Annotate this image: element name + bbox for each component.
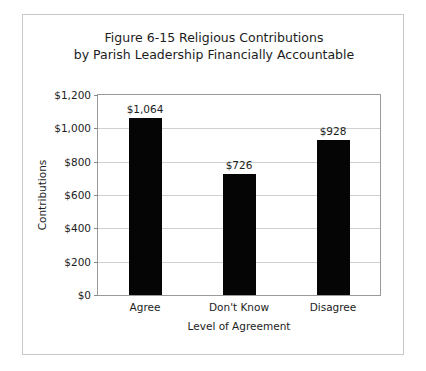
bar-value-label: $726 — [226, 159, 253, 171]
plot-area: $0$200$400$600$800$1,000$1,200$1,064Agre… — [97, 94, 381, 296]
y-axis-tick — [94, 162, 98, 163]
y-axis-tick-label: $800 — [64, 156, 91, 168]
y-axis-tick — [94, 262, 98, 263]
y-axis-tick — [94, 95, 98, 96]
chart-title: Figure 6-15 Religious Contributions by P… — [23, 29, 405, 63]
chart-title-line-2: by Parish Leadership Financially Account… — [23, 46, 405, 63]
bar: $928 — [317, 140, 350, 295]
bar-value-label: $1,064 — [127, 103, 164, 115]
x-axis-tick-label: Don't Know — [209, 301, 269, 313]
figure-frame: Figure 6-15 Religious Contributions by P… — [22, 14, 404, 355]
y-axis-title-label: Contributions — [36, 160, 48, 231]
y-axis-title: Contributions — [35, 94, 49, 296]
y-axis-tick — [94, 295, 98, 296]
bar-value-label: $928 — [320, 125, 347, 137]
y-axis-tick — [94, 128, 98, 129]
y-axis-tick — [94, 228, 98, 229]
y-axis-tick — [94, 195, 98, 196]
x-axis-tick-label: Agree — [130, 301, 161, 313]
bar: $726 — [223, 174, 256, 295]
y-axis-tick-label: $1,000 — [54, 122, 91, 134]
y-axis-tick-label: $200 — [64, 256, 91, 268]
y-axis-tick-label: $0 — [78, 289, 91, 301]
chart-title-line-1: Figure 6-15 Religious Contributions — [23, 29, 405, 46]
x-axis-tick-label: Disagree — [310, 301, 357, 313]
y-axis-tick-label: $400 — [64, 222, 91, 234]
y-axis-tick-label: $1,200 — [54, 89, 91, 101]
y-axis-tick-label: $600 — [64, 189, 91, 201]
x-axis-title: Level of Agreement — [97, 320, 381, 332]
bar: $1,064 — [129, 118, 162, 295]
